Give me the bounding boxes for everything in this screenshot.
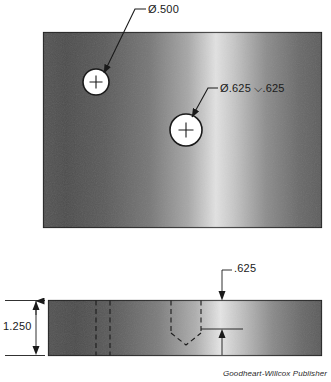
dimension-label-depth: .625 [234, 263, 256, 274]
hole-blind-625 [170, 114, 202, 146]
callout-hole-625: Ø.625 ⌵.625 [220, 83, 285, 94]
top-view [44, 9, 322, 228]
section-view [5, 270, 322, 356]
publisher-credit: Goodheart-Willcox Publisher [223, 369, 327, 378]
section-view-grain [49, 301, 322, 356]
drawing-canvas [0, 0, 331, 382]
callout-hole-500: Ø.500 [148, 4, 179, 15]
hole-through-500 [83, 69, 109, 95]
dimension-label-thickness: 1.250 [3, 321, 32, 332]
technical-drawing: Ø.500 Ø.625 ⌵.625 .625 1.250 Goodheart-W… [0, 0, 331, 382]
